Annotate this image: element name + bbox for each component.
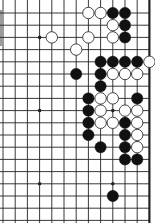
black-stone bbox=[83, 105, 94, 116]
black-stone bbox=[119, 142, 130, 153]
white-stone bbox=[107, 117, 118, 128]
white-stone bbox=[46, 32, 57, 43]
black-stone bbox=[119, 32, 130, 43]
white-stone bbox=[132, 68, 143, 79]
white-stone bbox=[107, 20, 118, 31]
black-stone bbox=[83, 129, 94, 140]
black-stone bbox=[107, 56, 118, 67]
white-stone bbox=[107, 68, 118, 79]
white-stone bbox=[132, 105, 143, 116]
white-stone bbox=[132, 117, 143, 128]
black-stone bbox=[119, 7, 130, 18]
white-stone bbox=[95, 117, 106, 128]
black-stone bbox=[119, 56, 130, 67]
white-stone bbox=[132, 129, 143, 140]
black-stone bbox=[132, 154, 143, 165]
black-stone bbox=[83, 93, 94, 104]
black-stone bbox=[107, 7, 118, 18]
black-stone bbox=[119, 154, 130, 165]
black-stone bbox=[95, 142, 106, 153]
star-point-icon bbox=[111, 109, 115, 113]
black-stone bbox=[83, 117, 94, 128]
star-point-icon bbox=[38, 36, 42, 40]
white-stone bbox=[144, 56, 155, 67]
white-stone bbox=[95, 105, 106, 116]
black-stone bbox=[71, 68, 82, 79]
black-stone bbox=[107, 190, 118, 201]
black-stone bbox=[119, 117, 130, 128]
white-stone bbox=[132, 142, 143, 153]
white-stone bbox=[71, 44, 82, 55]
black-stone bbox=[132, 56, 143, 67]
white-stone bbox=[119, 68, 130, 79]
star-point-icon bbox=[38, 182, 42, 186]
white-stone bbox=[95, 93, 106, 104]
black-stone bbox=[95, 81, 106, 92]
black-stone bbox=[119, 129, 130, 140]
star-point-icon bbox=[111, 182, 115, 186]
black-stone bbox=[119, 20, 130, 31]
white-stone bbox=[119, 105, 130, 116]
white-stone bbox=[83, 32, 94, 43]
go-board[interactable] bbox=[0, 0, 155, 223]
black-stone bbox=[95, 68, 106, 79]
black-stone bbox=[95, 56, 106, 67]
white-stone bbox=[107, 93, 118, 104]
black-stone bbox=[132, 93, 143, 104]
white-stone bbox=[95, 7, 106, 18]
white-stone bbox=[107, 32, 118, 43]
white-stone bbox=[83, 7, 94, 18]
star-point-icon bbox=[38, 109, 42, 113]
